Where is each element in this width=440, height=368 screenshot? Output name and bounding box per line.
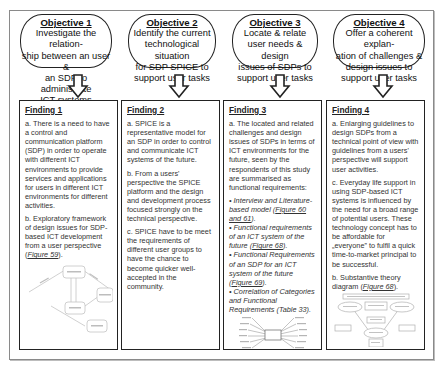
down-arrow-icon [168,74,190,99]
finding-point-a: a. There is a need to have a control and… [25,119,113,210]
finding-point-a: a. The located and related challenges an… [229,119,317,192]
objective-title: Objective 3 [233,17,317,28]
finding-point-a: a. Enlarging guidelines to design SDPs f… [332,119,420,174]
finding-point-a: a. SPICE is a representative model for a… [127,119,215,164]
finding-point-b: b. Exploratory framework of design issue… [25,214,113,259]
figure-link[interactable]: Figure 59 [27,250,58,259]
objective-text: technological situation [129,39,215,61]
figure-link[interactable]: Figure 68 [363,282,394,291]
objective-text: Offer a coherent explan- [334,28,424,50]
finding-text: ). [58,250,62,259]
objective-text: Identify the current [129,28,215,39]
objective-2: Objective 2 Identify the current technol… [128,14,216,68]
finding-point-b: b. From a users' perspective the SPICE p… [127,169,215,224]
finding-text: ). [283,241,287,250]
objective-text: for SDP SPICE to [129,62,215,73]
finding-bullet: • Interview and Literature-based model (… [229,196,317,223]
objective-title: Objective 4 [334,17,424,28]
finding-text: ). [394,282,398,291]
mindmap-thumbnail [238,316,308,352]
objective-text: Investigate the relation- [21,28,111,50]
finding-point-b: b. Substantive theory diagram (Figure 68… [332,273,420,291]
down-arrow-icon [269,74,291,99]
framework-diagram-thumbnail [25,264,113,334]
objective-text: issues of SDPs to [233,62,317,73]
finding-bullet: • Functional Requirements of an SDP for … [229,250,317,286]
objective-text: user needs & design [233,39,317,61]
objective-text: ship between an user & [21,51,111,73]
finding-title: Finding 3 [229,106,317,115]
finding-text: ). [262,278,266,287]
objective-3: Objective 3 Locate & relate user needs &… [232,14,318,68]
finding-1: Finding 1 a. There is a need to have a c… [19,100,118,350]
objective-text: design issues to [334,62,424,73]
objective-title: Objective 2 [129,17,215,28]
figure-link[interactable]: Figure 69 [231,278,262,287]
finding-bullet: • Correlation of Categories and Function… [229,287,317,314]
down-arrow-icon [372,74,394,99]
objective-text: ation of challenges & [334,51,424,62]
finding-text: • Correlation of Categories and Function… [229,287,315,314]
finding-point-c: c. Everyday life support in using SDP-ba… [332,178,420,269]
objective-1: Objective 1 Investigate the relation- sh… [20,14,112,68]
finding-4: Finding 4 a. Enlarging guidelines to des… [326,100,425,350]
finding-point-c: c. SPICE have to be meet the requirement… [127,227,215,291]
down-arrow-icon [67,74,89,99]
finding-title: Finding 2 [127,106,215,115]
figure-link[interactable]: Figure 68 [252,241,283,250]
objective-text: an SDP to administrate [21,73,111,95]
theory-diagram-thumbnail [333,293,419,347]
objective-4: Objective 4 Offer a coherent explan- ati… [333,14,425,68]
finding-title: Finding 1 [25,106,113,115]
finding-2: Finding 2 a. SPICE is a representative m… [121,100,220,350]
objective-title: Objective 1 [21,17,111,28]
finding-3: Finding 3 a. The located and related cha… [223,100,322,350]
finding-bullet: • Functional requirements of an ICT syst… [229,223,317,250]
diagram-frame: Objective 1 Investigate the relation- sh… [9,10,434,360]
finding-text: ). [251,214,255,223]
objective-text: Locate & relate [233,28,317,39]
finding-title: Finding 4 [332,106,420,115]
